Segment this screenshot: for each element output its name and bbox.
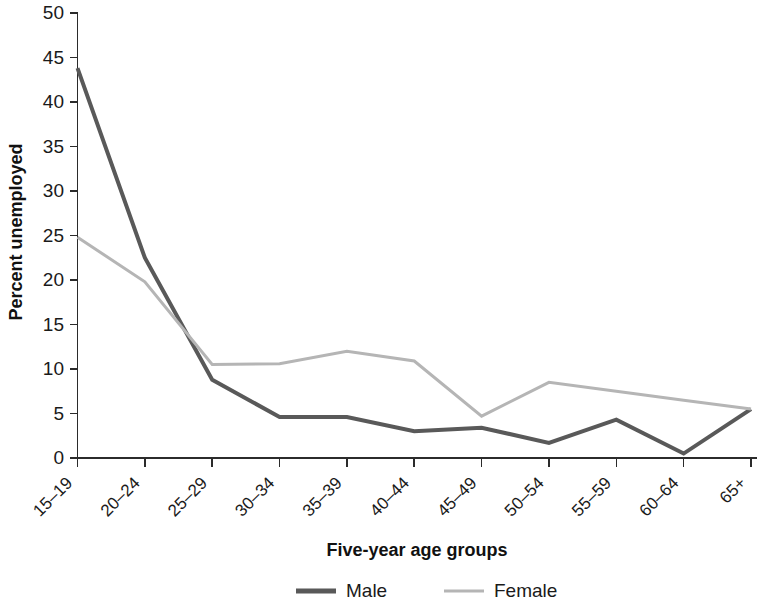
x-axis-tick-labels: 15–1920–2425–2930–3435–3940–4445–4950–54… [29, 473, 749, 520]
y-tick-label: 50 [43, 2, 64, 23]
x-tick-label: 15–19 [29, 473, 76, 520]
legend-label-male: Male [346, 580, 387, 601]
x-tick-label: 40–44 [366, 473, 413, 520]
x-tick-label: 25–29 [164, 473, 211, 520]
data-series-group [78, 68, 752, 453]
x-tick-label: 55–59 [568, 473, 615, 520]
x-tick-label: 20–24 [97, 473, 144, 520]
y-tick-label: 30 [43, 180, 64, 201]
y-tick-label: 35 [43, 136, 64, 157]
y-tick-label: 10 [43, 358, 64, 379]
y-tick-label: 5 [53, 403, 64, 424]
y-tick-label: 40 [43, 91, 64, 112]
y-tick-label: 20 [43, 269, 64, 290]
x-tick-label: 60–64 [636, 473, 683, 520]
y-tick-label: 45 [43, 47, 64, 68]
line-chart: 05101520253035404550 15–1920–2425–2930–3… [0, 0, 762, 607]
y-tick-label: 15 [43, 314, 64, 335]
x-tick-label: 45–49 [434, 473, 481, 520]
y-axis-tick-labels: 05101520253035404550 [43, 2, 64, 468]
legend-label-female: Female [494, 580, 557, 601]
y-tick-label: 0 [53, 447, 64, 468]
chart-legend: MaleFemale [296, 580, 557, 601]
chart-figure: 05101520253035404550 15–1920–2425–2930–3… [0, 0, 762, 607]
y-axis-ticks [70, 13, 78, 458]
y-axis-title: Percent unemployed [6, 143, 26, 320]
x-axis-ticks [78, 458, 752, 467]
y-tick-label: 25 [43, 225, 64, 246]
x-axis-title: Five-year age groups [326, 540, 507, 560]
x-tick-label: 50–54 [501, 473, 548, 520]
series-line-female [78, 237, 752, 416]
x-tick-label: 35–39 [299, 473, 346, 520]
x-tick-label: 30–34 [232, 473, 279, 520]
x-tick-label: 65+ [716, 473, 750, 507]
